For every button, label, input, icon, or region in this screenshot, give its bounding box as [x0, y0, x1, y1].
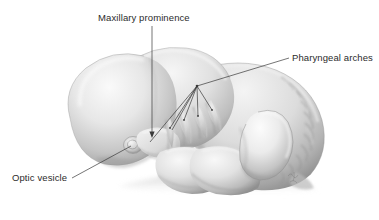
label-maxillary-prominence: Maxillary prominence	[98, 12, 190, 23]
label-optic-vesicle: Optic vesicle	[12, 172, 67, 183]
embryo-illustration-figure: Maxillary prominence Pharyngeal arches O…	[0, 0, 379, 220]
embryo-drawing	[0, 0, 379, 220]
label-pharyngeal-arches: Pharyngeal arches	[292, 52, 373, 63]
